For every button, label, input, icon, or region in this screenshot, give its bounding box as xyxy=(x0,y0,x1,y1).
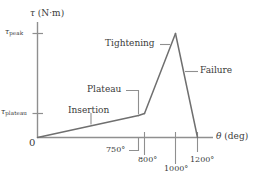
origin-label: 0 xyxy=(29,138,35,148)
x-tick-label-1000: 1000° xyxy=(164,165,188,173)
y-tick-label-plateau: τplateau xyxy=(1,108,27,117)
x-tick-label-750: 750° xyxy=(106,146,125,154)
annotation-insertion: Insertion xyxy=(68,106,109,115)
y-tick-label-peak: τpeak xyxy=(5,28,23,37)
x-axis-label: θ (deg) xyxy=(216,132,248,141)
x-axis-symbol: θ xyxy=(216,131,221,141)
x-axis-unit: (deg) xyxy=(224,131,248,141)
annotation-failure: Failure xyxy=(200,66,232,75)
annotation-tightening: Tightening xyxy=(105,39,155,48)
y-tick-peak-subscript: peak xyxy=(9,30,23,36)
y-axis-unit: (N·m) xyxy=(38,8,64,18)
y-axis-label: τ (N·m) xyxy=(30,9,64,18)
x-tick-label-1200: 1200° xyxy=(190,156,214,164)
torque-angle-chart xyxy=(0,0,255,182)
annotation-plateau: Plateau xyxy=(87,85,121,94)
x-tick-label-800: 800° xyxy=(138,156,157,164)
y-tick-plateau-subscript: plateau xyxy=(5,110,27,116)
y-axis-symbol: τ xyxy=(30,8,35,18)
